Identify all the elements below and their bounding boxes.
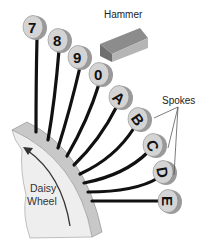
disc-0-glyph: 0 — [94, 66, 102, 83]
wheel-label-line2: Wheel — [27, 195, 57, 207]
disc-7: 7 — [23, 16, 47, 41]
disc-e-glyph: E — [159, 196, 176, 206]
hammer: Hammer — [100, 9, 148, 62]
daisy-wheel-diagram: Daisy Wheel Hammer 7 8 — [0, 0, 207, 241]
wheel-label-line1: Daisy — [30, 182, 57, 194]
disc-7-glyph: 7 — [28, 19, 36, 36]
spokes-label: Spokes — [162, 95, 195, 106]
disc-a: A — [109, 86, 133, 111]
callout-line-b — [154, 107, 178, 118]
disc-e: E — [158, 190, 182, 215]
disc-0: 0 — [89, 63, 113, 88]
hammer-label: Hammer — [104, 9, 143, 20]
disc-9: 9 — [68, 46, 92, 71]
daisy-wheel: Daisy Wheel — [12, 122, 102, 238]
disc-8-glyph: 8 — [53, 32, 61, 49]
disc-b: B — [128, 108, 152, 133]
disc-9-glyph: 9 — [73, 49, 81, 66]
disc-d: D — [153, 161, 177, 186]
callout-line-d — [174, 107, 178, 175]
disc-8: 8 — [48, 29, 72, 54]
